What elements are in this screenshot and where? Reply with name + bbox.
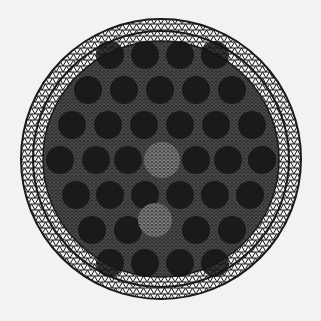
hole [202,111,230,139]
hole [238,111,266,139]
hole [182,146,210,174]
hole [182,76,210,104]
hole [166,111,194,139]
hole [201,249,229,277]
hole [130,111,158,139]
hole [94,111,122,139]
hole [166,41,194,69]
hole [62,181,90,209]
hole [248,146,276,174]
hole [78,216,106,244]
hole [96,249,124,277]
hole [58,111,86,139]
hole [131,41,159,69]
hole [114,146,142,174]
hole [214,146,242,174]
hole [166,181,194,209]
hole [218,216,246,244]
hole [201,181,229,209]
mesh-figure [0,0,321,321]
hole [182,216,210,244]
hole [236,181,264,209]
hole [82,146,110,174]
hole [218,76,246,104]
hole [110,76,138,104]
hole [46,146,74,174]
hole [146,76,174,104]
lower-empty-cell [138,203,172,237]
hole [114,216,142,244]
hole [131,249,159,277]
hole [96,181,124,209]
center-refined-zone [144,142,180,178]
hole [201,41,229,69]
hole [74,76,102,104]
hole [166,249,194,277]
hole [96,41,124,69]
